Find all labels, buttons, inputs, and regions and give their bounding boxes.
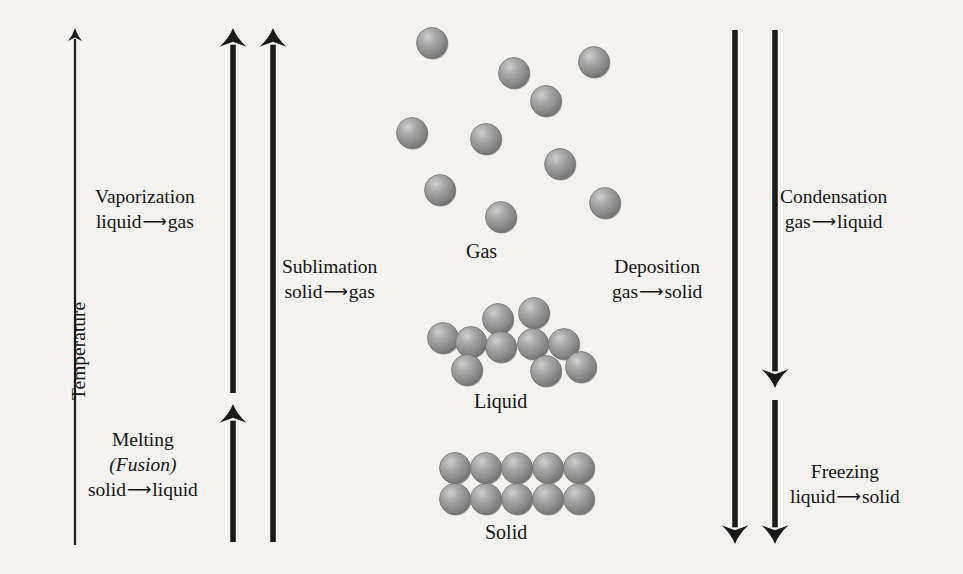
arrow-shaft — [772, 400, 778, 527]
sphere-icon — [486, 202, 518, 234]
sphere-body — [531, 356, 562, 387]
arrow-deposition — [722, 30, 749, 544]
sphere-body — [533, 453, 564, 484]
sphere-icon — [579, 47, 611, 79]
sphere-icon — [397, 118, 429, 150]
sphere-body — [564, 453, 595, 484]
sphere-icon — [502, 484, 534, 516]
axis-label-temperature: Temperature — [68, 302, 90, 400]
arrow-freezing — [762, 400, 789, 544]
sphere-body — [471, 124, 502, 155]
sphere-body — [564, 484, 595, 515]
arrow-head-icon — [762, 369, 789, 388]
label-melting-from: solid — [88, 479, 126, 500]
sphere-body — [471, 484, 502, 515]
label-melting: Melting (Fusion) solid⟶liquid — [88, 428, 198, 503]
sphere-body — [486, 202, 517, 233]
sphere-body — [518, 329, 549, 360]
arrow-shaft — [270, 45, 276, 542]
right-arrow-icon: ⟶ — [836, 486, 862, 506]
sphere-body — [456, 327, 487, 358]
right-arrow-icon: ⟶ — [141, 211, 167, 231]
label-freezing-from: liquid — [790, 486, 836, 507]
sphere-icon — [471, 484, 503, 516]
sphere-icon — [545, 149, 577, 181]
label-deposition-from: gas — [612, 281, 638, 302]
sphere-icon — [564, 484, 596, 516]
sphere-icon — [519, 298, 551, 330]
label-melting-to: liquid — [152, 479, 198, 500]
sphere-icon — [533, 484, 565, 516]
label-vaporization-name: Vaporization — [95, 186, 195, 207]
label-melting-name: Melting — [112, 429, 174, 450]
label-condensation-to: liquid — [837, 211, 883, 232]
sphere-body — [452, 355, 483, 386]
sphere-body — [502, 484, 533, 515]
label-deposition-name: Deposition — [614, 256, 700, 277]
sphere-body — [440, 484, 471, 515]
phase-label-gas: Gas — [466, 240, 497, 263]
arrow-shaft — [230, 45, 236, 393]
sphere-body — [590, 188, 621, 219]
sphere-icon — [499, 58, 531, 90]
sphere-body — [531, 86, 562, 117]
arrow-head-icon — [220, 404, 247, 423]
arrow-temperature_axis — [68, 28, 82, 545]
molecule-group — [397, 28, 622, 516]
sphere-icon — [440, 453, 472, 485]
label-freezing-name: Freezing — [811, 461, 879, 482]
sphere-icon — [456, 327, 488, 359]
sphere-icon — [471, 124, 503, 156]
sphere-icon — [590, 188, 622, 220]
sphere-body — [471, 453, 502, 484]
arrow-shaft — [772, 30, 778, 371]
label-vaporization-from: liquid — [96, 211, 142, 232]
sphere-body — [519, 298, 550, 329]
sphere-icon — [533, 453, 565, 485]
sphere-body — [425, 175, 456, 206]
phase-label-solid: Solid — [485, 521, 527, 544]
sphere-icon — [425, 175, 457, 207]
sphere-body — [579, 47, 610, 78]
sphere-body — [397, 118, 428, 149]
label-freezing-to: solid — [862, 486, 900, 507]
sphere-body — [440, 453, 471, 484]
label-condensation-from: gas — [785, 211, 811, 232]
phase-change-diagram: Temperature Vaporization liquid⟶gas Melt… — [0, 0, 963, 574]
sphere-body — [417, 28, 448, 59]
sphere-body — [483, 304, 514, 335]
right-arrow-icon: ⟶ — [322, 281, 348, 301]
label-condensation: Condensation gas⟶liquid — [780, 185, 887, 235]
sphere-icon — [428, 323, 460, 355]
label-deposition: Deposition gas⟶solid — [612, 255, 702, 305]
arrow-melting — [220, 404, 247, 542]
sphere-body — [566, 352, 597, 383]
label-vaporization: Vaporization liquid⟶gas — [95, 185, 195, 235]
arrow-head-icon — [260, 28, 287, 47]
arrow-head-icon — [722, 525, 749, 544]
label-sublimation-from: solid — [285, 281, 323, 302]
sphere-icon — [531, 86, 563, 118]
arrow-vaporization — [220, 28, 247, 393]
arrow-shaft — [230, 421, 236, 542]
right-arrow-icon: ⟶ — [811, 211, 837, 231]
right-arrow-icon: ⟶ — [126, 479, 152, 499]
phase-label-liquid: Liquid — [474, 390, 527, 413]
label-melting-alt-name: (Fusion) — [109, 454, 176, 475]
sphere-icon — [452, 355, 484, 387]
label-sublimation-to: gas — [349, 281, 375, 302]
label-sublimation: Sublimation solid⟶gas — [282, 255, 377, 305]
sphere-icon — [417, 28, 449, 60]
sphere-body — [499, 58, 530, 89]
arrow-head-icon — [762, 525, 789, 544]
sphere-icon — [483, 304, 515, 336]
sphere-icon — [471, 453, 503, 485]
right-arrow-icon: ⟶ — [638, 281, 664, 301]
label-freezing: Freezing liquid⟶solid — [790, 460, 900, 510]
sphere-body — [428, 323, 459, 354]
sphere-icon — [502, 453, 534, 485]
sphere-body — [486, 332, 517, 363]
sphere-icon — [564, 453, 596, 485]
label-deposition-to: solid — [664, 281, 702, 302]
label-condensation-name: Condensation — [780, 186, 887, 207]
